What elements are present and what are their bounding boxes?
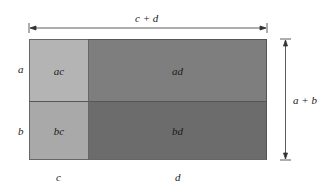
- column-label-d: d: [175, 172, 181, 183]
- region-ac: ac: [29, 39, 88, 101]
- top-dimension-label: c + d: [135, 13, 158, 24]
- region-bc-label: bc: [30, 125, 88, 137]
- right-dimension-label: a + b: [293, 95, 317, 106]
- region-ad-label: ad: [89, 65, 266, 77]
- region-ac-label: ac: [30, 65, 88, 77]
- top-dimension-arrow: [29, 23, 267, 33]
- region-bc: bc: [29, 101, 88, 160]
- row-label-b: b: [18, 126, 24, 137]
- row-label-a: a: [18, 64, 24, 75]
- region-bd: bd: [88, 101, 267, 160]
- region-bd-label: bd: [89, 125, 266, 137]
- right-dimension-arrow: [280, 39, 291, 160]
- column-label-c: c: [56, 172, 61, 183]
- region-ad: ad: [88, 39, 267, 101]
